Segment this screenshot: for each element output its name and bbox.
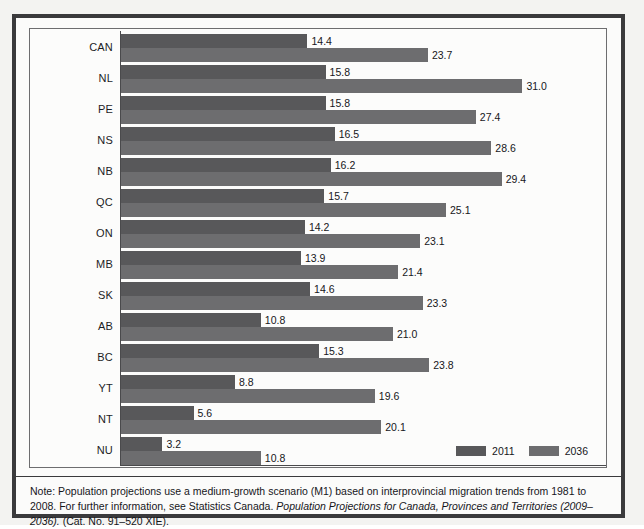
- bar-value-sk-2036: 23.3: [427, 296, 447, 310]
- legend-swatch-2036: [529, 446, 559, 456]
- bar-bc-2036: [121, 358, 429, 372]
- category-label-can: CAN: [30, 41, 113, 53]
- bar-value-nb-2011: 16.2: [335, 158, 355, 172]
- bar-value-pe-2036: 27.4: [480, 110, 500, 124]
- bar-can-2036: [121, 48, 428, 62]
- bar-pe-2011: [121, 96, 326, 110]
- x-axis-baseline: [120, 465, 606, 466]
- bar-value-on-2036: 23.1: [424, 234, 444, 248]
- bar-value-ab-2011: 10.8: [265, 313, 285, 327]
- legend-item-2036: 2036: [529, 445, 588, 457]
- bar-yt-2011: [121, 375, 235, 389]
- bar-nb-2036: [121, 172, 502, 186]
- chart-plot-frame: CAN14.423.7NL15.831.0PE15.827.4NS16.528.…: [29, 28, 607, 468]
- bar-value-nb-2036: 29.4: [506, 172, 526, 186]
- bar-value-ns-2011: 16.5: [339, 127, 359, 141]
- bar-yt-2036: [121, 389, 375, 403]
- bar-value-yt-2036: 19.6: [379, 389, 399, 403]
- category-label-ns: NS: [30, 134, 113, 146]
- bar-nt-2011: [121, 406, 194, 420]
- bar-sk-2011: [121, 282, 310, 296]
- note-text-part2: (Cat. No. 91–520 XIE).: [60, 515, 169, 527]
- category-label-nt: NT: [30, 413, 113, 425]
- bar-nl-2011: [121, 65, 326, 79]
- legend-item-2011: 2011: [456, 445, 515, 457]
- bar-value-ab-2036: 21.0: [397, 327, 417, 341]
- bar-mb-2011: [121, 251, 301, 265]
- figure-frame: CAN14.423.7NL15.831.0PE15.827.4NS16.528.…: [12, 14, 625, 518]
- legend-label-2011: 2011: [492, 445, 515, 457]
- bar-value-yt-2011: 8.8: [239, 375, 254, 389]
- bar-ns-2036: [121, 141, 491, 155]
- bar-value-can-2036: 23.7: [432, 48, 452, 62]
- bar-nt-2036: [121, 420, 381, 434]
- bar-value-nu-2011: 3.2: [166, 437, 181, 451]
- figure-note: Note: Population projections use a mediu…: [30, 484, 607, 529]
- bar-sk-2036: [121, 296, 423, 310]
- bar-value-bc-2011: 15.3: [323, 344, 343, 358]
- bar-value-bc-2036: 23.8: [433, 358, 453, 372]
- category-label-qc: QC: [30, 196, 113, 208]
- bar-bc-2011: [121, 344, 319, 358]
- category-label-on: ON: [30, 227, 113, 239]
- bar-value-qc-2011: 15.7: [328, 189, 348, 203]
- bar-value-qc-2036: 25.1: [450, 203, 470, 217]
- bar-nb-2011: [121, 158, 331, 172]
- bar-value-on-2011: 14.2: [309, 220, 329, 234]
- bar-value-mb-2036: 21.4: [402, 265, 422, 279]
- bar-value-mb-2011: 13.9: [305, 251, 325, 265]
- bar-value-nu-2036: 10.8: [265, 451, 285, 465]
- bar-nu-2036: [121, 451, 261, 465]
- category-label-nu: NU: [30, 444, 113, 456]
- bar-value-nt-2036: 20.1: [385, 420, 405, 434]
- category-label-pe: PE: [30, 103, 113, 115]
- bar-value-sk-2011: 14.6: [314, 282, 334, 296]
- bar-can-2011: [121, 34, 307, 48]
- bar-ab-2036: [121, 327, 393, 341]
- bar-value-pe-2011: 15.8: [330, 96, 350, 110]
- category-label-mb: MB: [30, 258, 113, 270]
- bar-qc-2036: [121, 203, 446, 217]
- bar-mb-2036: [121, 265, 398, 279]
- category-label-nl: NL: [30, 72, 113, 84]
- category-label-sk: SK: [30, 289, 113, 301]
- category-label-ab: AB: [30, 320, 113, 332]
- category-label-bc: BC: [30, 351, 113, 363]
- bar-value-nl-2036: 31.0: [526, 79, 546, 93]
- bar-nl-2036: [121, 79, 522, 93]
- bar-value-ns-2036: 28.6: [495, 141, 515, 155]
- bar-on-2011: [121, 220, 305, 234]
- category-label-nb: NB: [30, 165, 113, 177]
- legend-swatch-2011: [456, 446, 486, 456]
- bar-ab-2011: [121, 313, 261, 327]
- legend-label-2036: 2036: [565, 445, 588, 457]
- bar-on-2036: [121, 234, 420, 248]
- bar-pe-2036: [121, 110, 476, 124]
- chart-plot-area: CAN14.423.7NL15.831.0PE15.827.4NS16.528.…: [30, 29, 606, 467]
- bar-value-nt-2011: 5.6: [198, 406, 213, 420]
- bar-ns-2011: [121, 127, 335, 141]
- category-label-yt: YT: [30, 382, 113, 394]
- bar-nu-2011: [121, 437, 162, 451]
- chart-legend: 2011 2036: [452, 443, 592, 459]
- bar-value-nl-2011: 15.8: [330, 65, 350, 79]
- note-divider: [16, 476, 621, 477]
- bar-value-can-2011: 14.4: [311, 34, 331, 48]
- bar-qc-2011: [121, 189, 324, 203]
